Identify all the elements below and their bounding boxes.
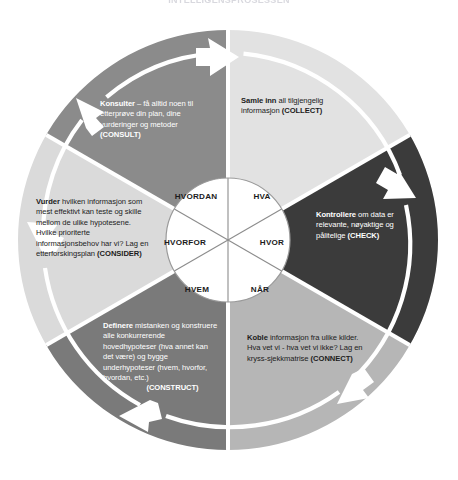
hub-label-naar: NÅR [251,285,269,294]
segment-label-connect: Koble informasjon fra ulike kilder. Hva … [247,333,365,364]
segment-body-construct: mistanken og konstruere alle konkurreren… [103,321,217,382]
segment-lead-check: Kontrollere [316,210,356,219]
segment-lead-consult: Konsulter [100,99,135,108]
segment-label-collect: Samle inn all tilgjengelig informasjon (… [241,96,345,117]
segment-label-consider: Vurder hvilken informasjon som mest effe… [36,197,151,259]
hub-label-hvordan: HVORDAN [175,192,218,201]
segment-code-consider: (CONSIDER) [97,249,142,258]
hub-label-hvem: HVEM [185,285,209,294]
segment-lead-collect: Samle inn [241,96,276,105]
diagram-canvas: INTELLIGENSPROSESSEN [0,0,458,480]
segment-label-construct: Definere mistanken og konstruere alle ko… [103,321,220,394]
segment-lead-construct: Definere [103,321,133,330]
hub-label-hvorfor: HVORFOR [164,238,206,247]
hub-label-hva: HVA [253,192,270,201]
segment-label-consult: Konsulter – få alltid noen til etterprøv… [100,99,212,141]
segment-code-consult: (CONSULT) [100,130,141,139]
segment-code-collect: (COLLECT) [282,106,322,115]
segment-code-check: (CHECK) [348,231,380,240]
segment-code-construct: (CONSTRUCT) [103,383,220,393]
segment-label-check: Kontrollere om data er relevante, nøyakt… [316,210,416,241]
segment-lead-consider: Vurder [36,197,60,206]
segment-code-connect: (CONNECT) [311,354,353,363]
segment-lead-connect: Koble [247,333,268,342]
hub-label-hvor: HVOR [260,238,284,247]
